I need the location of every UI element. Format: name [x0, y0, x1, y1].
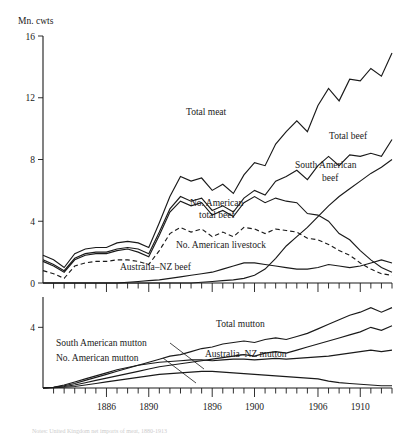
series-line-no-american-mutton: [43, 371, 392, 388]
y-axis-title: Mn. cwts: [18, 16, 54, 26]
x-axis-tick-label: 1910: [351, 402, 370, 412]
meat-imports-line-chart: Mn. cwts0481216Total meatTotal beefSouth…: [0, 0, 400, 439]
figure-caption: Notes: United Kingdom net imports of mea…: [32, 428, 167, 434]
label-south-american-beef-line2: beef: [322, 173, 339, 183]
upper-y-tick-label: 12: [26, 93, 36, 103]
lower-panel: 4188618901896190019061910Total muttonSou…: [30, 297, 392, 412]
label-no-american-total-beef-line1: No. American: [190, 198, 244, 208]
series-line-south-american-beef: [43, 160, 392, 284]
upper-y-tick-label: 16: [26, 32, 36, 42]
x-axis-tick-label: 1886: [97, 402, 116, 412]
upper-panel: Mn. cwts0481216Total meatTotal beefSouth…: [18, 16, 392, 292]
upper-y-tick-label: 8: [30, 155, 35, 165]
label-south-american-beef-line1: South American: [295, 160, 357, 170]
lower-y-tick-label: 4: [30, 323, 35, 333]
upper-y-tick-label: 4: [30, 217, 35, 227]
label-no-american-livestock: No. American livestock: [176, 240, 266, 250]
x-axis-tick-label: 1896: [203, 402, 222, 412]
label-no-american-mutton: No. American mutton: [56, 353, 139, 363]
upper-y-tick-label: 0: [30, 279, 35, 289]
series-line-australia-nz-beef: [43, 260, 392, 283]
leader-south-american-mutton: [170, 343, 204, 369]
label-total-mutton: Total mutton: [216, 319, 265, 329]
chart-figure: Mn. cwts0481216Total meatTotal beefSouth…: [0, 0, 400, 439]
label-total-beef: Total beef: [329, 131, 368, 141]
x-axis-tick-label: 1900: [245, 402, 264, 412]
x-axis-tick-label: 1906: [308, 402, 327, 412]
label-south-american-mutton: South American mutton: [56, 338, 147, 348]
label-australia-nz-mutton: Australia–NZ mutton: [205, 349, 287, 359]
label-total-meat: Total meat: [186, 107, 227, 117]
label-australia-nz-beef: Australia–NZ beef: [120, 262, 192, 272]
x-axis-tick-label: 1890: [139, 402, 158, 412]
label-no-american-total-beef-line2: total beef: [199, 210, 235, 220]
